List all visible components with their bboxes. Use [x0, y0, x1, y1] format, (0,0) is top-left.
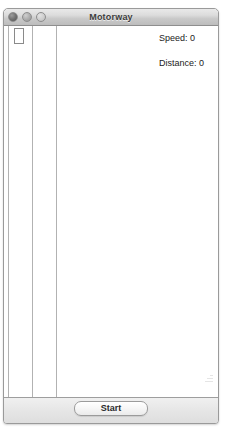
- title-bar[interactable]: Motorway: [4, 9, 218, 26]
- resize-grip-line-3: [205, 381, 213, 382]
- start-button[interactable]: Start: [74, 401, 148, 416]
- lane-line-middle: [32, 26, 33, 397]
- bottom-toolbar: Start: [4, 397, 218, 423]
- lane-line-right: [56, 26, 57, 397]
- speed-readout: Speed: 0: [159, 33, 204, 43]
- window-title: Motorway: [4, 9, 218, 26]
- distance-readout: Distance: 0: [159, 58, 204, 68]
- simulation-canvas[interactable]: Speed: 0 Distance: 0: [4, 26, 218, 397]
- readout-panel: Speed: 0 Distance: 0: [159, 33, 204, 68]
- resize-grip-line-2: [207, 378, 213, 379]
- lane-line-left: [8, 26, 9, 397]
- resize-grip-line-1: [210, 375, 213, 376]
- application-window: Motorway Speed: 0 Distance: 0 Start: [3, 8, 219, 424]
- car-sprite: [14, 28, 24, 44]
- resize-grip-icon[interactable]: [205, 375, 213, 385]
